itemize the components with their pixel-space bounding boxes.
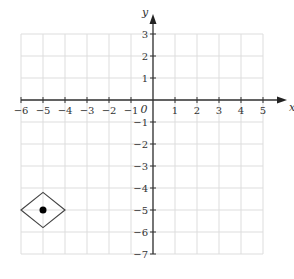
y-tick-label: −6 [133,227,148,238]
x-tick-label: 2 [194,105,200,116]
y-axis-label: y [141,6,149,19]
y-tick-label: −7 [133,249,148,260]
x-axis-label: x [289,101,294,114]
x-tick-label: 3 [216,105,222,116]
y-tick-label: −2 [133,139,148,150]
data-point [40,207,47,214]
y-tick-label: 1 [142,73,148,84]
y-tick-label: −4 [133,183,148,194]
x-tick-label: −3 [80,105,95,116]
y-tick-label: −5 [133,205,148,216]
x-tick-label: −5 [36,105,51,116]
coordinate-grid: −6−5−4−3−2−112345321−1−2−3−4−5−6−70xy [0,0,294,279]
y-tick-label: −3 [133,161,148,172]
x-tick-label: −4 [58,105,73,116]
x-tick-label: −1 [124,105,139,116]
x-tick-label: −2 [102,105,117,116]
x-tick-label: 4 [238,105,244,116]
y-axis-arrow-icon [150,14,157,24]
x-tick-label: 1 [172,105,178,116]
origin-label: 0 [141,103,148,116]
y-tick-label: 3 [142,29,148,40]
x-tick-label: 5 [260,105,266,116]
y-tick-label: 2 [142,51,148,62]
x-axis-arrow-icon [277,97,287,104]
x-tick-label: −6 [14,105,29,116]
y-tick-label: −1 [133,117,148,128]
